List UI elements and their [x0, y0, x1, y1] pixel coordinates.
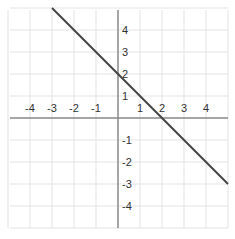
y-tick-label: 1	[122, 90, 128, 102]
x-tick-label: -4	[25, 102, 35, 114]
y-tick-label: -1	[122, 134, 132, 146]
x-tick-label: -3	[47, 102, 57, 114]
x-tick-label: 4	[203, 102, 209, 114]
x-tick-label: -1	[91, 102, 101, 114]
y-tick-label: -4	[122, 200, 132, 212]
x-tick-label: -2	[69, 102, 79, 114]
x-tick-label: 2	[159, 102, 165, 114]
y-tick-label: -2	[122, 156, 132, 168]
y-tick-label: 4	[122, 24, 128, 36]
y-tick-label: -3	[122, 178, 132, 190]
axes	[10, 10, 228, 228]
x-tick-label: 3	[181, 102, 187, 114]
x-tick-label: 1	[137, 102, 143, 114]
y-tick-label: 3	[122, 46, 128, 58]
coordinate-plane: -4-3-2-112344321-1-2-3-4	[0, 0, 235, 239]
